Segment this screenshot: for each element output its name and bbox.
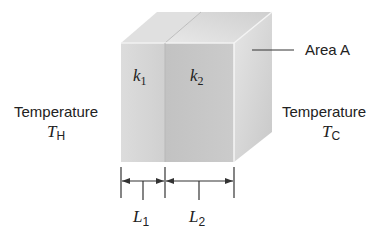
composite-wall-diagram: k1 k2 Area A Temperature TH Temperature …	[0, 0, 384, 235]
arrow-head-icon	[166, 178, 174, 184]
hot-side-temperature: TH	[47, 122, 65, 143]
cold-side-label: Temperature	[282, 103, 366, 120]
hot-side-label: Temperature	[14, 103, 98, 120]
layer-2-thickness-label: L2	[188, 207, 205, 229]
layer-1-thickness-label: L1	[132, 207, 149, 229]
layer-1-front-face	[121, 43, 165, 162]
thickness-dimension-lines	[121, 167, 234, 200]
arrow-head-icon	[122, 178, 130, 184]
arrow-head-icon	[156, 178, 164, 184]
cold-side-temperature: TC	[322, 122, 340, 143]
layer-2-front-face	[165, 43, 234, 162]
arrow-head-icon	[225, 178, 233, 184]
area-label: Area A	[305, 41, 350, 58]
